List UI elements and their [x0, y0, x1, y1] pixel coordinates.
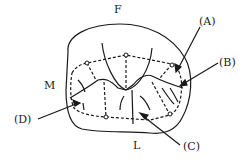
fissure-left: [70, 79, 126, 98]
callout-a: (A): [199, 16, 216, 27]
central-fissure: [102, 43, 152, 90]
callout-d: (D): [14, 114, 31, 125]
callout-c: (C): [183, 141, 200, 152]
callout-b: (B): [219, 57, 236, 68]
label-lingual: L: [133, 140, 140, 151]
tooth-outline: [66, 24, 191, 133]
label-mesial: M: [44, 80, 55, 91]
label-facial: F: [114, 4, 122, 15]
